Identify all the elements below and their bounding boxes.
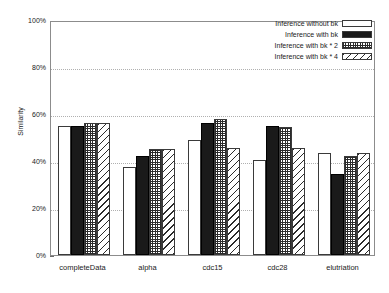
bar (279, 127, 292, 255)
legend-item: Inference without bk (232, 18, 372, 28)
x-tick-label: elutriation (303, 264, 383, 272)
bar (266, 126, 279, 255)
chart-legend: Inference without bkInference with bkInf… (232, 18, 372, 62)
bar (253, 160, 266, 255)
legend-item: Inference with bk * 4 (232, 51, 372, 61)
bar (71, 126, 84, 255)
bar (162, 149, 175, 255)
y-tick-label: 60% (12, 111, 46, 118)
bar (227, 148, 240, 255)
bar (123, 167, 136, 255)
bar (292, 148, 305, 255)
bar (97, 123, 110, 255)
legend-swatch (342, 53, 372, 60)
bar (344, 156, 357, 255)
gridline (51, 69, 374, 70)
bar (188, 140, 201, 255)
bar (58, 126, 71, 255)
bar (136, 156, 149, 255)
legend-item-label: Inference with bk (285, 31, 342, 38)
y-tick-label: 100% (12, 17, 46, 24)
legend-item: Inference with bk (232, 29, 372, 39)
bar (331, 174, 344, 255)
bar (214, 119, 227, 255)
legend-item: Inference with bk * 2 (232, 40, 372, 50)
bar (318, 153, 331, 255)
y-tick-label: 20% (12, 205, 46, 212)
y-tick-label: 0% (12, 252, 46, 259)
y-tick-label: 40% (12, 158, 46, 165)
legend-item-label: Inference with bk * 2 (275, 42, 342, 49)
legend-item-label: Inference with bk * 4 (275, 53, 342, 60)
legend-swatch (342, 31, 372, 38)
legend-swatch (342, 42, 372, 49)
bar (201, 123, 214, 255)
gridline (51, 116, 374, 117)
y-tick-mark (50, 256, 54, 257)
legend-swatch (342, 20, 372, 27)
bar-chart: Similarity 0%20%40%60%80%100% completeDa… (0, 0, 389, 293)
legend-item-label: Inference without bk (275, 20, 342, 27)
bar (357, 153, 370, 255)
y-tick-label: 80% (12, 64, 46, 71)
bar (149, 149, 162, 255)
bar (84, 123, 97, 255)
